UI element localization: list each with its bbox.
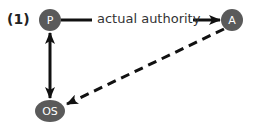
edge-a-to-os-dashed — [67, 29, 224, 104]
node-p: P — [39, 9, 61, 31]
edge-label-actual-authority: actual authority — [97, 11, 200, 26]
node-a: A — [221, 9, 243, 31]
node-a-label: A — [228, 14, 236, 27]
figure-number: (1) — [7, 11, 30, 27]
node-p-label: P — [47, 14, 54, 27]
node-os: OS — [35, 100, 65, 122]
node-os-label: OS — [42, 105, 58, 118]
